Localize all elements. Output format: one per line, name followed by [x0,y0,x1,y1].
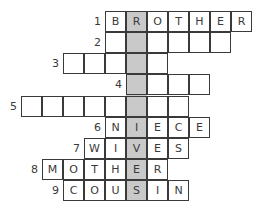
crossword-cell[interactable] [168,74,189,95]
crossword-cell[interactable] [189,74,210,95]
crossword-cell[interactable] [42,96,63,117]
clue-number: 4 [110,74,122,95]
crossword-cell[interactable]: O [63,159,84,180]
clue-number: 3 [47,53,59,74]
crossword-cell[interactable] [147,96,168,117]
crossword-cell[interactable]: R [126,11,147,32]
crossword-cell[interactable] [21,96,42,117]
clue-number: 1 [89,11,101,32]
crossword-cell[interactable]: I [126,117,147,138]
crossword-cell[interactable]: T [84,159,105,180]
crossword-cell[interactable] [105,32,126,53]
crossword-cell[interactable] [105,53,126,74]
crossword-cell[interactable] [147,74,168,95]
crossword-cell[interactable]: E [126,159,147,180]
crossword-cell[interactable]: R [147,159,168,180]
crossword-cell[interactable]: E [189,117,210,138]
crossword-cell[interactable]: C [63,180,84,201]
crossword-cell[interactable] [126,74,147,95]
clue-number: 7 [68,138,80,159]
crossword-cell[interactable] [147,32,168,53]
crossword-cell[interactable]: O [84,180,105,201]
crossword-cell[interactable] [126,32,147,53]
crossword-cell[interactable]: E [210,11,231,32]
crossword-cell[interactable]: T [168,11,189,32]
crossword-cell[interactable]: I [147,180,168,201]
crossword-cell[interactable] [84,53,105,74]
clue-number: 2 [89,32,101,53]
crossword-cell[interactable] [189,32,210,53]
crossword-cell[interactable]: R [231,11,252,32]
crossword-cell[interactable] [147,53,168,74]
crossword-cell[interactable] [63,53,84,74]
crossword-cell[interactable]: E [147,117,168,138]
crossword-cell[interactable]: S [126,180,147,201]
crossword-cell[interactable]: S [168,138,189,159]
crossword-cell[interactable]: V [126,138,147,159]
crossword-cell[interactable]: W [84,138,105,159]
crossword-cell[interactable]: H [105,159,126,180]
crossword-cell[interactable]: N [105,117,126,138]
crossword-cell[interactable] [210,32,231,53]
crossword-cell[interactable]: U [105,180,126,201]
crossword-cell[interactable] [168,96,189,117]
crossword-cell[interactable] [168,32,189,53]
crossword-cell[interactable]: E [147,138,168,159]
crossword-cell[interactable] [84,96,105,117]
clue-number: 5 [5,96,17,117]
clue-number: 9 [47,180,59,201]
crossword-cell[interactable]: O [147,11,168,32]
crossword-cell[interactable]: H [189,11,210,32]
crossword-cell[interactable] [63,96,84,117]
crossword-cell[interactable] [126,96,147,117]
clue-number: 6 [89,117,101,138]
clue-number: 8 [26,159,38,180]
crossword-puzzle: 1BROTHER23456NIECE7WIVES8MOTHER9COUSIN [0,0,259,215]
crossword-cell[interactable]: I [105,138,126,159]
crossword-cell[interactable]: N [168,180,189,201]
crossword-cell[interactable]: B [105,11,126,32]
crossword-cell[interactable] [126,53,147,74]
crossword-cell[interactable]: M [42,159,63,180]
crossword-cell[interactable] [105,96,126,117]
crossword-cell[interactable]: C [168,117,189,138]
